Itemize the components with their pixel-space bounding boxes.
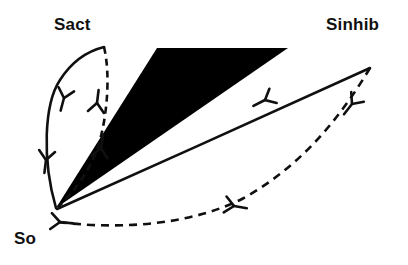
node-label-so: So xyxy=(14,230,36,247)
arrowhead-icon xyxy=(338,92,364,119)
black-wedge-shape xyxy=(56,48,288,208)
node-label-sinhib: Sinhib xyxy=(326,16,379,33)
diagram-canvas xyxy=(0,0,408,265)
figure-root: Sact Sinhib So xyxy=(0,0,408,265)
node-label-sact: Sact xyxy=(54,16,91,33)
arrowhead-icon xyxy=(53,87,74,112)
arrowhead-group xyxy=(36,87,363,231)
arrowhead-icon xyxy=(50,213,74,231)
arrowhead-icon xyxy=(88,89,107,113)
arrowhead-icon xyxy=(250,89,277,113)
